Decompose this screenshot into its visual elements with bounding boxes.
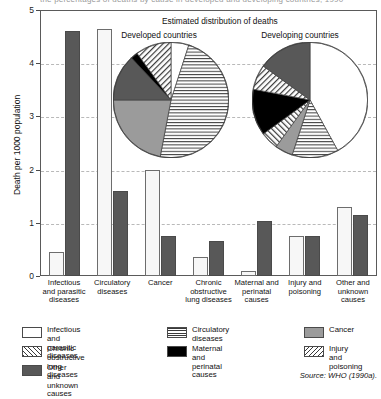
bar <box>209 241 224 276</box>
bar <box>49 252 64 276</box>
legend-label: Injury and poisoning <box>329 345 362 371</box>
bar <box>257 221 272 276</box>
legend-swatch <box>22 346 42 357</box>
pie-right-title: Developing countries <box>250 30 350 40</box>
legend-label: Cancer <box>329 326 354 335</box>
legend-swatch <box>167 346 187 357</box>
x-axis-tick-label: Injury and poisoning <box>281 279 329 296</box>
y-tick-label: 5 <box>0 5 34 15</box>
y-tick-label: 4 <box>0 58 34 68</box>
bar <box>97 29 112 276</box>
bar <box>305 236 320 276</box>
legend-swatch <box>304 327 324 338</box>
x-axis-tick-label: Maternal and perinatal causes <box>233 279 281 305</box>
x-axis-tick-label: Other and unknown causes <box>329 279 377 305</box>
y-tick-mark <box>36 276 40 277</box>
bar <box>241 271 256 276</box>
legend-label: Maternal and perinatal causes <box>192 345 222 380</box>
source-note: Source: WHO (1990a). <box>300 371 377 380</box>
y-axis-label: Death per 1000 population <box>12 95 22 195</box>
bar <box>145 170 160 276</box>
bar <box>161 236 176 276</box>
bar <box>65 31 80 276</box>
x-axis-tick-label: Circulatory diseases <box>88 279 136 296</box>
y-tick-label: 2 <box>0 165 34 175</box>
pie-chart-developed <box>113 42 229 162</box>
legend-swatch <box>167 327 187 338</box>
top-caption: the percentages of deaths by cause in de… <box>40 0 360 5</box>
x-axis-tick-label: Cancer <box>136 279 184 288</box>
bar <box>289 236 304 276</box>
legend-swatch <box>304 346 324 357</box>
bar <box>193 257 208 276</box>
legend-label: Circulatory diseases <box>192 326 229 344</box>
x-axis-tick-label: Chronic obstructive lung diseases <box>184 279 232 305</box>
inset-title: Estimated distribution of deaths <box>162 16 278 26</box>
legend-label: Other and unknown causes <box>47 364 78 399</box>
y-tick-label: 3 <box>0 111 34 121</box>
bar <box>113 191 128 276</box>
pie-left-title: Developed countries <box>111 30 207 40</box>
y-tick-label: 0 <box>0 271 34 281</box>
y-tick-label: 1 <box>0 218 34 228</box>
legend-swatch <box>22 365 42 376</box>
pie-chart-developing <box>252 42 368 162</box>
legend-swatch <box>22 327 42 338</box>
bar-group <box>40 10 88 276</box>
bar <box>353 215 368 276</box>
x-axis-labels: Infectious and parasitic diseasesCircula… <box>40 279 377 313</box>
bar <box>337 207 352 276</box>
x-axis-tick-label: Infectious and parasitic diseases <box>40 279 88 305</box>
